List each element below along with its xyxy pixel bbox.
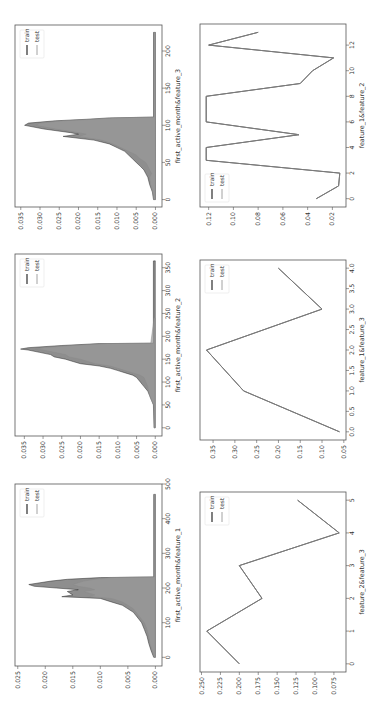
y-tick-label: 0.10 xyxy=(318,445,325,459)
series-train xyxy=(29,494,156,657)
y-tick-label: 0.075 xyxy=(330,677,337,695)
x-tick-label: 0 xyxy=(164,426,171,430)
y-tick-label: 0.020 xyxy=(74,212,81,230)
x-tick-label: 4 xyxy=(348,145,355,149)
x-tick-label: 0 xyxy=(164,198,171,202)
y-tick-label: 0.020 xyxy=(41,671,48,689)
x-tick-label: 400 xyxy=(164,513,171,525)
x-tick-label: 6 xyxy=(348,120,355,124)
x-tick-label: 8 xyxy=(348,94,355,98)
series-test xyxy=(36,32,155,199)
x-axis-label: feature_2&feature_3 xyxy=(358,549,366,615)
x-axis-label: feature_1&feature_3 xyxy=(358,317,366,383)
x-tick-label: 5 xyxy=(348,498,355,502)
x-tick-label: 500 xyxy=(164,478,171,490)
y-tick-label: 0.005 xyxy=(133,441,140,459)
y-tick-label: 0.015 xyxy=(94,212,101,230)
x-tick-label: 200 xyxy=(164,45,171,57)
x-tick-label: 100 xyxy=(164,376,171,388)
x-tick-label: 2.0 xyxy=(348,345,355,355)
x-tick-label: 0 xyxy=(348,662,355,666)
legend-train-label: train xyxy=(24,487,30,501)
panel-line-feature-2-feature-3: 012345feature_2&feature_30.0750.1000.125… xyxy=(196,488,380,706)
y-tick-label: 0.010 xyxy=(113,212,120,230)
legend: traintest xyxy=(205,172,229,202)
y-tick-label: 0.030 xyxy=(39,441,46,459)
legend: traintest xyxy=(205,495,229,525)
y-tick-label: 0.175 xyxy=(254,677,261,695)
legend-test-label: test xyxy=(34,259,40,271)
y-tick-label: 0.005 xyxy=(132,212,139,230)
legend: traintest xyxy=(20,28,44,58)
x-tick-label: 2 xyxy=(348,596,355,600)
y-tick-label: 0.005 xyxy=(124,671,131,689)
y-tick-label: 0.02 xyxy=(328,212,335,226)
legend-test-label: test xyxy=(34,489,40,501)
x-tick-label: 250 xyxy=(164,307,171,319)
y-tick-label: 0.015 xyxy=(69,671,76,689)
legend-test-label: test xyxy=(219,265,225,277)
x-axis-label: first_active_month&feature_3 xyxy=(174,69,182,163)
y-tick-label: 0.200 xyxy=(235,677,242,695)
x-tick-label: 4 xyxy=(348,531,355,535)
x-tick-label: 0 xyxy=(348,197,355,201)
y-tick-label: 0.100 xyxy=(311,677,318,695)
y-tick-label: 0.000 xyxy=(151,441,158,459)
x-tick-label: 100 xyxy=(164,119,171,131)
x-tick-label: 300 xyxy=(164,285,171,297)
x-tick-label: 3.0 xyxy=(348,304,355,314)
x-axis-label: first_active_month&feature_1 xyxy=(174,528,182,622)
y-tick-label: 0.10 xyxy=(229,212,236,226)
x-tick-label: 12 xyxy=(348,41,355,49)
y-tick-label: 0.035 xyxy=(20,441,27,459)
series-train xyxy=(25,32,156,199)
y-tick-label: 0.030 xyxy=(36,212,43,230)
x-tick-label: 200 xyxy=(164,582,171,594)
x-tick-label: 2.5 xyxy=(348,325,355,335)
y-tick-label: 0.125 xyxy=(292,677,299,695)
y-tick-label: 0.020 xyxy=(76,441,83,459)
x-tick-label: 300 xyxy=(164,547,171,559)
legend-train-label: train xyxy=(209,172,215,186)
x-tick-label: 150 xyxy=(164,353,171,365)
legend-train-label: train xyxy=(209,263,215,277)
y-tick-label: 0.010 xyxy=(96,671,103,689)
x-tick-label: 200 xyxy=(164,330,171,342)
y-tick-label: 0.010 xyxy=(114,441,121,459)
x-tick-label: 4.0 xyxy=(348,263,355,273)
x-tick-label: 0.5 xyxy=(348,406,355,416)
y-tick-label: 0.05 xyxy=(340,445,347,459)
x-tick-label: 0.0 xyxy=(348,427,355,437)
series-test xyxy=(206,32,340,198)
x-axis-label: first_active_month&feature_2 xyxy=(174,298,182,392)
x-tick-label: 100 xyxy=(164,617,171,629)
y-tick-label: 0.000 xyxy=(151,671,158,689)
series-test xyxy=(73,494,156,657)
x-tick-label: 150 xyxy=(164,82,171,94)
x-tick-label: 1.0 xyxy=(348,386,355,396)
legend-train-label: train xyxy=(24,257,30,271)
series-train xyxy=(206,32,340,198)
y-tick-label: 0.04 xyxy=(304,212,311,226)
y-tick-label: 0.025 xyxy=(55,212,62,230)
y-tick-label: 0.025 xyxy=(14,671,21,689)
y-tick-label: 0.035 xyxy=(17,212,24,230)
x-tick-label: 50 xyxy=(164,401,171,409)
x-tick-label: 1.5 xyxy=(348,365,355,375)
y-tick-label: 0.025 xyxy=(58,441,65,459)
y-tick-label: 0.15 xyxy=(296,445,303,459)
y-tick-label: 0.225 xyxy=(216,677,223,695)
legend-train-label: train xyxy=(24,28,30,42)
legend: traintest xyxy=(205,263,229,293)
x-tick-label: 1 xyxy=(348,629,355,633)
y-tick-label: 0.35 xyxy=(209,445,216,459)
x-tick-label: 350 xyxy=(164,262,171,274)
panel-density-feature-3: 050100150200first_active_month&feature_3… xyxy=(11,21,196,241)
legend-test-label: test xyxy=(219,497,225,509)
legend-test-label: test xyxy=(34,30,40,42)
legend: traintest xyxy=(20,487,44,517)
panel-line-feature-1-feature-3: 0.00.51.01.52.02.53.03.54.0feature_1&fea… xyxy=(196,256,380,474)
x-axis-label: feature_1&feature_2 xyxy=(358,83,366,149)
panel-density-feature-2: 050100150200250300350first_active_month&… xyxy=(11,250,196,470)
y-tick-label: 0.150 xyxy=(273,677,280,695)
